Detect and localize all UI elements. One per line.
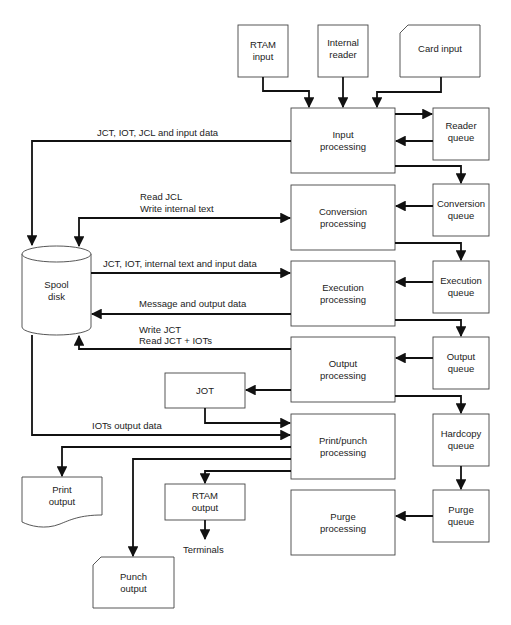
hardcopy-queue-label: Hardcopy queue xyxy=(433,414,489,466)
print-punch-processing-label: Print/punch processing xyxy=(291,414,395,479)
purge-queue-label: Purge queue xyxy=(433,490,489,542)
terminals-label: Terminals xyxy=(183,544,224,556)
edge-label-execution-to-spool: Message and output data xyxy=(139,298,246,310)
conversion-queue-label: Conversion queue xyxy=(433,184,489,236)
internal-reader-label: Internal reader xyxy=(318,25,368,73)
rtam-input-label: RTAM input xyxy=(238,25,288,77)
spool-disk-label: Spool disk xyxy=(22,276,91,306)
conversion-processing-label: Conversion processing xyxy=(291,185,395,250)
purge-processing-label: Purge processing xyxy=(291,490,395,555)
reader-queue-label: Reader queue xyxy=(433,108,489,156)
edge-label-read-jct-iots: Read JCT + IOTs xyxy=(139,335,212,347)
edge-label-input-to-spool: JCT, IOT, JCL and input data xyxy=(97,127,218,139)
edge-label-write-internal-text: Write internal text xyxy=(140,203,214,215)
jot-label: JOT xyxy=(165,373,245,408)
output-processing-label: Output processing xyxy=(291,337,395,402)
execution-processing-label: Execution processing xyxy=(291,261,395,326)
edge-label-iots-output-data: IOTs output data xyxy=(92,420,162,432)
edge-label-spool-to-execution: JCT, IOT, internal text and input data xyxy=(103,258,257,270)
input-processing-label: Input processing xyxy=(291,108,395,173)
spool-disk-top xyxy=(22,246,91,262)
execution-queue-label: Execution queue xyxy=(433,261,489,313)
punch-output-label: Punch output xyxy=(93,557,174,608)
rtam-output-label: RTAM output xyxy=(165,484,245,520)
card-input-label: Card input xyxy=(400,25,480,73)
edge-label-read-jcl: Read JCL xyxy=(140,191,182,203)
print-output-label: Print output xyxy=(22,477,102,515)
output-queue-label: Output queue xyxy=(433,337,489,389)
